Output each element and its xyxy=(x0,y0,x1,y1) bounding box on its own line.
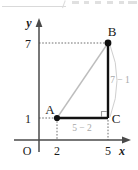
point-c-label: C xyxy=(112,111,121,126)
x-tick-label-5: 5 xyxy=(105,144,111,158)
point-a-label: A xyxy=(45,102,55,117)
point-b-label: B xyxy=(108,24,117,39)
x-tick-label-2: 2 xyxy=(54,144,60,158)
origin-label: O xyxy=(23,144,32,158)
figure-canvas: A B C 7 1 2 5 O x y 5 − 2 7 − 1 xyxy=(0,0,138,170)
point-b-dot xyxy=(105,40,112,47)
segment-hypotenuse-ab xyxy=(57,43,108,118)
coordinate-diagram: A B C 7 1 2 5 O x y 5 − 2 7 − 1 xyxy=(0,0,138,170)
y-tick-label-1: 1 xyxy=(25,112,31,126)
x-axis-label: x xyxy=(118,144,125,158)
y-axis-arrow-icon xyxy=(36,18,43,27)
y-axis-label: y xyxy=(24,16,32,30)
x-axis-arrow-icon xyxy=(122,137,131,144)
measure-label-vertical: 7 − 1 xyxy=(110,75,130,85)
point-a-dot xyxy=(54,115,60,121)
measure-label-horizontal: 5 − 2 xyxy=(72,123,92,133)
right-angle-square-icon xyxy=(102,112,108,118)
y-tick-label-7: 7 xyxy=(25,37,31,51)
